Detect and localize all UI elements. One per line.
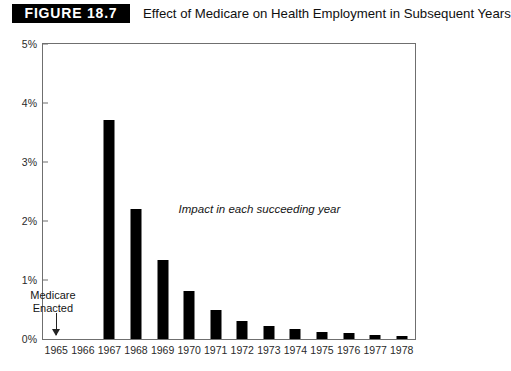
x-axis-tick-label: 1972 [231,344,254,356]
y-axis-tick-label: 4% [22,97,43,109]
annotation-medicare-enacted: Medicare Enacted [30,289,75,315]
y-axis-tick-mark [43,44,48,45]
x-axis-tick-label: 1967 [98,344,121,356]
x-axis-tick-label: 1976 [337,344,360,356]
y-axis-tick-mark [43,221,48,222]
figure-header: FIGURE 18.7 Effect of Medicare on Health… [0,4,486,26]
figure-title: Effect of Medicare on Health Employment … [143,5,511,23]
figure-number-badge: FIGURE 18.7 [12,4,130,23]
bar-1974 [290,329,301,339]
x-axis-tick-label: 1965 [45,344,68,356]
chart-container: 0%1%2%3%4%5%1965196619671968196919701971… [0,28,486,371]
y-axis-tick-label: 3% [22,156,43,168]
axis-area: 0%1%2%3%4%5%1965196619671968196919701971… [43,44,415,339]
x-axis-tick-label: 1977 [363,344,386,356]
bar-1969 [157,260,168,339]
bar-1971 [210,310,221,340]
bar-1967 [104,120,115,339]
y-axis-tick-label: 0% [22,333,43,345]
y-axis-tick-mark [43,162,48,163]
bar-1972 [237,321,248,339]
y-axis-tick-mark [43,280,48,281]
x-axis-tick-label: 1973 [257,344,280,356]
y-axis-tick-label: 5% [22,38,43,50]
x-axis-tick-label: 1966 [71,344,94,356]
arrow-head [52,329,60,336]
y-axis-tick-label: 2% [22,215,43,227]
x-axis-tick-label: 1978 [390,344,413,356]
x-axis-tick-label: 1971 [204,344,227,356]
plot-area: 0%1%2%3%4%5%1965196619671968196919701971… [42,43,416,340]
x-axis-tick-label: 1968 [124,344,147,356]
bar-1968 [131,209,142,339]
x-axis-tick-label: 1975 [310,344,333,356]
x-axis-tick-label: 1970 [177,344,200,356]
annotation-impact: Impact in each succeeding year [179,203,341,215]
bar-1976 [343,333,354,339]
annotation-medicare-line1: Medicare [30,289,75,302]
bar-1973 [263,326,274,339]
bar-1975 [317,332,328,339]
bar-1978 [396,336,407,339]
y-axis-tick-mark [43,103,48,104]
x-axis-tick-label: 1974 [284,344,307,356]
arrow-down-icon [52,313,61,335]
bar-1977 [370,335,381,339]
x-axis-tick-label: 1969 [151,344,174,356]
bar-1970 [184,291,195,339]
y-axis-tick-label: 1% [22,274,43,286]
